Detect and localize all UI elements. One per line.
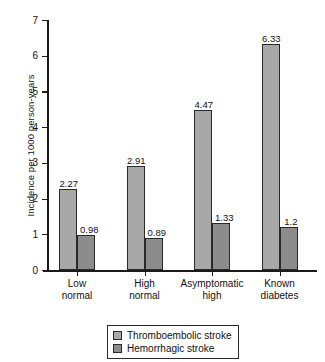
y-axis-tick-mark [42,91,47,92]
bar-value-label: 2.27 [59,179,78,189]
y-axis-tick-mark [42,199,47,200]
y-axis-tick-mark [42,20,47,21]
y-axis-tick-label: 2 [32,194,38,204]
y-axis-tick: 3 [42,163,47,164]
legend-label: Thromboembolic stroke [127,331,231,341]
bar-chart: Incidence per 1000 person-years 01234567… [0,0,325,362]
x-axis-tick-mark [77,270,78,276]
y-axis-tick-mark [42,163,47,164]
legend-swatch-icon [113,344,122,353]
bar-hemorrhagic: 1.33 [212,223,230,271]
y-axis-tick: 4 [42,127,47,128]
x-axis-tick-mark [145,270,146,276]
bar-hemorrhagic: 0.89 [145,238,163,270]
y-axis-tick: 2 [42,199,47,200]
y-axis-tick: 5 [42,91,47,92]
bar-value-label: 1.33 [215,213,234,223]
y-axis-tick-label: 1 [32,230,38,240]
bar-hemorrhagic: 1.2 [280,227,298,270]
y-axis-tick: 1 [42,234,47,235]
y-axis-tick-label: 4 [32,123,38,133]
bar-thromboembolic: 6.33 [262,44,280,270]
y-axis-tick-label: 7 [32,16,38,26]
bar-value-label: 6.33 [262,34,281,44]
legend-item-2: Hemorrhagic stroke [113,342,231,355]
y-axis-title: Incidence per 1000 person-years [25,46,36,246]
y-axis-tick: 6 [42,56,47,57]
bar-hemorrhagic: 0.98 [77,235,95,270]
y-axis-tick-mark [42,56,47,57]
y-axis-tick-label: 3 [32,158,38,168]
y-axis-tick-label: 5 [32,87,38,97]
y-axis-tick: 7 [42,20,47,21]
y-axis-tick-mark [42,234,47,235]
y-axis-line [47,20,49,270]
x-axis-line [43,270,317,272]
legend-label: Hemorrhagic stroke [127,344,214,354]
bar-value-label: 1.2 [284,217,297,227]
x-axis-tick-mark [280,270,281,276]
bar-value-label: 2.91 [127,156,146,166]
bar-thromboembolic: 2.91 [127,166,145,270]
y-axis-tick-label: 0 [32,266,38,276]
category-label-line: Known [235,278,325,290]
bar-value-label: 0.98 [80,225,99,235]
bar-thromboembolic: 2.27 [59,189,77,270]
plot-area: 01234567 2.270.982.910.894.471.336.331.2 [47,20,317,270]
x-axis-tick-mark [212,270,213,276]
bar-thromboembolic: 4.47 [194,110,212,270]
bar-value-label: 0.89 [148,228,167,238]
legend-item-1: Thromboembolic stroke [113,329,231,342]
y-axis-tick-mark [42,270,47,271]
y-axis-tick-mark [42,127,47,128]
legend-swatch-icon [113,331,122,340]
x-axis-category-label: Knowndiabetes [235,278,325,301]
y-axis-tick-label: 6 [32,51,38,61]
chart-legend: Thromboembolic strokeHemorrhagic stroke [107,325,239,359]
y-axis-tick: 0 [42,270,47,271]
bar-value-label: 4.47 [194,100,213,110]
category-label-line: diabetes [235,290,325,302]
